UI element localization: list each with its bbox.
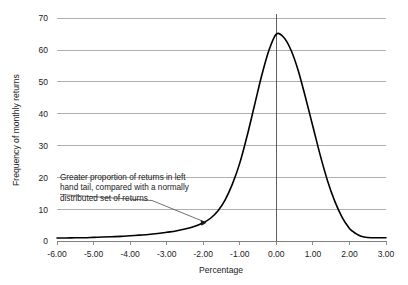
y-tick-label-50: 50 <box>39 77 49 87</box>
x-axis-tick-labels: -6.00 -5.00 -4.00 -3.00 -2.00 -1.00 0.00… <box>47 249 394 259</box>
frequency-distribution-chart: 70 60 50 40 30 20 10 0 -6.00 -5.00 -4.00… <box>0 0 408 285</box>
y-tick-label-20: 20 <box>39 173 49 183</box>
y-tick-label-40: 40 <box>39 109 49 119</box>
x-tick-label-3: 3.00 <box>378 249 395 259</box>
chart-container: 70 60 50 40 30 20 10 0 -6.00 -5.00 -4.00… <box>0 0 408 285</box>
annotation-line-2: hand tail, compared with a normally <box>60 183 190 192</box>
y-tick-label-10: 10 <box>39 205 49 215</box>
x-axis-tickmarks <box>57 241 386 245</box>
x-tick-label--4: -4.00 <box>120 249 140 259</box>
y-tick-label-60: 60 <box>39 45 49 55</box>
x-tick-label--5: -5.00 <box>84 249 104 259</box>
x-tick-label--1: -1.00 <box>230 249 250 259</box>
distribution-curve <box>57 33 386 238</box>
y-axis-title: Frequency of monthly returns <box>11 74 21 186</box>
x-tick-label-1: 1.00 <box>305 249 322 259</box>
x-axis-title: Percentage <box>199 265 243 275</box>
y-tick-label-0: 0 <box>43 236 48 246</box>
x-tick-label-0: 0.00 <box>268 249 285 259</box>
left-tail-annotation: Greater proportion of returns in left ha… <box>60 173 190 203</box>
x-tick-label--3: -3.00 <box>157 249 177 259</box>
x-tick-label--2: -2.00 <box>194 249 214 259</box>
annotation-line-1: Greater proportion of returns in left <box>60 173 186 182</box>
x-tick-label-2: 2.00 <box>341 249 358 259</box>
annotation-line-3: distributed set of returns <box>60 194 148 203</box>
x-tick-label--6: -6.00 <box>47 249 67 259</box>
y-axis-tick-labels: 70 60 50 40 30 20 10 0 <box>39 13 49 246</box>
y-tick-label-70: 70 <box>39 13 49 23</box>
y-tick-label-30: 30 <box>39 141 49 151</box>
